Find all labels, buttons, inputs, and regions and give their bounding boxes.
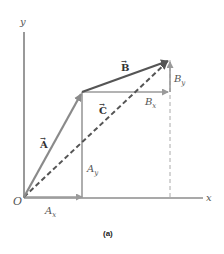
vector-b-label: B bbox=[121, 62, 129, 73]
x-axis-label: x bbox=[206, 192, 212, 203]
vector-a-label: A bbox=[39, 139, 48, 150]
by-label: By bbox=[173, 73, 186, 87]
y-axis-label: y bbox=[19, 16, 26, 27]
bx-label: Bx bbox=[144, 96, 156, 110]
ay-label: Ay bbox=[86, 163, 99, 177]
vector-c-label: C bbox=[99, 105, 107, 116]
ax-label: Ax bbox=[44, 205, 56, 219]
vector-addition-diagram: y x O → A → B → C Ax Ay Bx By (a) bbox=[0, 0, 224, 254]
figure-caption: (a) bbox=[103, 229, 113, 238]
origin-label: O bbox=[13, 195, 22, 208]
vector-a bbox=[24, 94, 81, 197]
